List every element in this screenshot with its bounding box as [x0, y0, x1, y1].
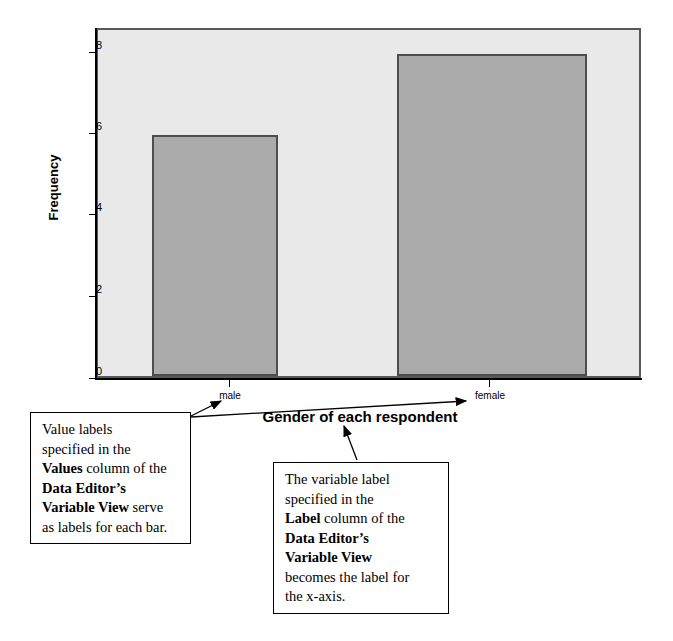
bar-male — [152, 135, 278, 376]
callout-left-bold-values: Values — [42, 460, 83, 476]
x-tick-female — [489, 380, 490, 387]
callout-right-line-3-rest: column of the — [320, 510, 404, 526]
callout-left-line-5-rest: serve — [129, 499, 163, 515]
callout-left-line-1: Value labels — [42, 420, 181, 440]
callout-left-bold-data-editor: Data Editor’s — [42, 480, 126, 496]
callout-left-line-3: Values column of the — [42, 459, 181, 479]
y-tick-label-8: 8 — [62, 45, 102, 46]
y-tick-label-4: 4 — [62, 207, 102, 208]
x-tick-label-male: male — [185, 390, 275, 401]
callout-left-line-6: as labels for each bar. — [42, 518, 181, 538]
callout-right-bold-data-editor: Data Editor’s — [285, 530, 369, 546]
callout-right-line-5: Variable View — [285, 548, 439, 568]
y-tick-8 — [89, 52, 96, 53]
callout-right-line-4: Data Editor’s — [285, 529, 439, 549]
callout-right-line-6: becomes the label for — [285, 568, 439, 588]
callout-right-line-2: specified in the — [285, 490, 439, 510]
y-tick-2 — [89, 296, 96, 297]
x-tick-label-female: female — [445, 390, 535, 401]
y-axis-title: Frequency — [46, 128, 61, 248]
callout-value-labels: Value labels specified in the Values col… — [30, 412, 191, 544]
callout-left-line-4: Data Editor’s — [42, 479, 181, 499]
callout-variable-label: The variable label specified in the Labe… — [273, 462, 449, 614]
y-tick-label-0: 0 — [62, 371, 102, 372]
bar-female — [397, 54, 587, 376]
callout-right-line-1: The variable label — [285, 470, 439, 490]
x-axis-line — [95, 378, 642, 380]
callout-right-bold-label: Label — [285, 510, 320, 526]
callout-left-line-2: specified in the — [42, 440, 181, 460]
callout-right-line-7: the x-axis. — [285, 587, 439, 607]
arrow-to-x-axis-title — [344, 426, 357, 460]
callout-left-bold-variable-view: Variable View — [42, 499, 129, 515]
callout-left-line-5: Variable View serve — [42, 498, 181, 518]
bar-chart-figure: 8 6 4 2 0 Frequency male female Gender o… — [0, 0, 673, 400]
x-axis-title: Gender of each respondent — [200, 408, 520, 425]
y-tick-4 — [89, 214, 96, 215]
callout-right-bold-variable-view: Variable View — [285, 549, 372, 565]
y-tick-6 — [89, 133, 96, 134]
plot-area — [96, 28, 641, 378]
x-tick-male — [229, 380, 230, 387]
callout-left-line-3-rest: column of the — [83, 460, 167, 476]
y-tick-label-6: 6 — [62, 126, 102, 127]
y-tick-label-2: 2 — [62, 289, 102, 290]
callout-right-line-3: Label column of the — [285, 509, 439, 529]
